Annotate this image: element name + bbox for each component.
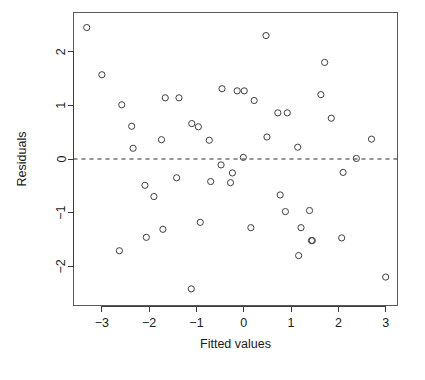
data-point [241,88,247,94]
data-point [160,226,166,232]
y-axis-tick-labels: −2−1012 [55,48,69,273]
data-point [264,134,270,140]
y-tick-label: 1 [55,102,69,109]
x-tick-label: −2 [142,316,156,330]
data-point [162,95,168,101]
data-point [189,120,195,126]
x-tick-label: −1 [189,316,203,330]
x-tick-label: 0 [240,316,247,330]
x-tick-label: 1 [288,316,295,330]
data-point [234,88,240,94]
data-point [176,95,182,101]
data-point [318,92,324,98]
data-point [277,192,283,198]
data-point [158,137,164,143]
data-point [119,102,125,108]
data-point [322,59,328,65]
data-point [219,86,225,92]
data-point [206,137,212,143]
data-point [227,180,233,186]
data-point [251,97,257,103]
y-tick-label: −1 [55,205,69,219]
data-point [99,72,105,78]
data-point [328,115,334,121]
x-axis-tick-labels: −3−2−10123 [95,316,389,330]
data-point [306,207,312,213]
y-tick-label: 0 [55,155,69,162]
data-point [208,178,214,184]
data-point [263,32,269,38]
x-tick-label: 3 [382,316,389,330]
data-point [282,208,288,214]
data-point [130,145,136,151]
data-point [116,248,122,254]
data-point [383,274,389,280]
data-point [218,162,224,168]
scatter-points [84,24,389,292]
data-point [340,169,346,175]
data-point [275,110,281,116]
data-point [174,175,180,181]
plot-canvas: −3−2−10123 −2−1012 Fitted values Residua… [0,0,425,380]
data-point [295,144,301,150]
x-tick-label: −3 [95,316,109,330]
data-point [129,123,135,129]
data-point [143,234,149,240]
x-axis-ticks [102,306,386,312]
y-tick-label: 2 [55,48,69,55]
data-point [195,124,201,130]
x-tick-label: 2 [335,316,342,330]
data-point [188,286,194,292]
data-point [296,252,302,258]
data-point [339,235,345,241]
data-point [229,170,235,176]
data-point [248,225,254,231]
data-point [298,225,304,231]
data-point [84,24,90,30]
y-axis-title: Residuals [15,132,29,187]
data-point [368,136,374,142]
data-point [284,110,290,116]
residuals-vs-fitted-plot: −3−2−10123 −2−1012 Fitted values Residua… [0,0,425,380]
data-point [151,193,157,199]
x-axis-title: Fitted values [200,337,271,351]
data-point [197,219,203,225]
data-point [142,182,148,188]
y-tick-label: −2 [55,259,69,273]
